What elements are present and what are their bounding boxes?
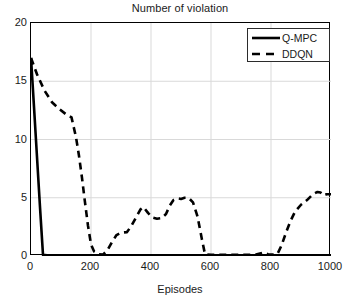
y-tick-label: 15 (1, 75, 27, 86)
x-tick-label: 800 (248, 261, 292, 272)
series-line-q-mpc (31, 58, 331, 255)
legend-item-ddqn[interactable]: DDQN (248, 46, 331, 62)
x-tick-label: 600 (188, 261, 232, 272)
y-tick-label: 20 (1, 17, 27, 28)
x-tick-label: 200 (68, 261, 112, 272)
legend-item-q-mpc[interactable]: Q-MPC (248, 30, 331, 46)
y-tick-label: 0 (1, 250, 27, 261)
x-tick-label: 0 (8, 261, 52, 272)
x-tick-label: 1000 (308, 261, 348, 272)
legend-swatch-dashed-icon (251, 47, 281, 61)
legend-swatch-solid-icon (251, 31, 281, 45)
x-axis-label: Episodes (30, 283, 330, 295)
legend-label-q-mpc: Q-MPC (282, 32, 317, 44)
chart-legend[interactable]: Q-MPC DDQN (247, 28, 330, 62)
x-axis-tick-labels: 0 200 400 600 800 1000 (30, 261, 330, 275)
chart-figure: Number of violation 20 15 10 5 0 0 200 4… (0, 0, 348, 307)
chart-title: Number of violation (30, 2, 330, 14)
legend-label-ddqn: DDQN (282, 48, 313, 60)
y-tick-label: 5 (1, 192, 27, 203)
y-tick-label: 10 (1, 134, 27, 145)
x-tick-label: 400 (128, 261, 172, 272)
series-line-ddqn (31, 58, 331, 255)
y-axis-tick-labels: 20 15 10 5 0 (0, 22, 27, 255)
